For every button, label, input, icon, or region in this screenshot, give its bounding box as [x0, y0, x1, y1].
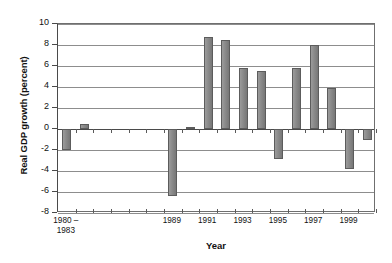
- x-axis-tick-bottom: [129, 209, 130, 213]
- x-axis-tick: [341, 129, 342, 133]
- x-axis-tick: [199, 129, 200, 133]
- y-axis-title: Real GDP growth (percent): [18, 31, 29, 201]
- bar: [363, 129, 372, 140]
- x-axis-tick: [270, 129, 271, 133]
- x-axis-tick-label-line: 1980 –: [43, 216, 89, 226]
- x-axis-tick: [129, 129, 130, 133]
- bar: [292, 68, 301, 129]
- bar: [204, 37, 213, 129]
- y-axis-tick-label: -8: [21, 206, 49, 216]
- bar: [274, 129, 283, 159]
- y-axis-tick: [52, 149, 57, 150]
- x-axis-tick: [217, 129, 218, 133]
- y-axis-tick: [52, 128, 57, 129]
- x-axis-tick: [376, 129, 377, 133]
- y-axis-tick-label: 10: [21, 17, 49, 27]
- plot-area: [57, 23, 375, 212]
- bar: [186, 127, 195, 129]
- bar: [239, 68, 248, 129]
- bar: [257, 71, 266, 129]
- x-axis-tick-bottom: [305, 209, 306, 213]
- y-axis-tick: [52, 65, 57, 66]
- gdp-growth-bar-chart: Real GDP growth (percent) Year 1086420-2…: [0, 0, 392, 263]
- x-axis-tick: [76, 129, 77, 133]
- x-axis-tick: [323, 129, 324, 133]
- y-axis-tick: [52, 170, 57, 171]
- x-axis-tick-bottom: [182, 209, 183, 213]
- y-axis-tick-label: -4: [21, 164, 49, 174]
- y-axis-tick: [52, 191, 57, 192]
- y-axis-tick-label: 4: [21, 80, 49, 90]
- x-axis-tick: [164, 129, 165, 133]
- gridline: [58, 150, 374, 151]
- y-axis-tick-label: 2: [21, 101, 49, 111]
- gridline: [58, 45, 374, 46]
- bar: [221, 40, 230, 129]
- y-axis-tick-label: 6: [21, 59, 49, 69]
- x-axis-tick-bottom: [93, 209, 94, 213]
- x-axis-tick-bottom: [217, 209, 218, 213]
- x-axis-tick-bottom: [341, 209, 342, 213]
- x-axis-tick-bottom: [288, 209, 289, 213]
- x-axis-tick: [252, 129, 253, 133]
- x-axis-tick-bottom: [323, 209, 324, 213]
- y-axis-tick: [52, 212, 57, 213]
- y-axis-tick: [52, 86, 57, 87]
- y-axis-tick-label: -2: [21, 143, 49, 153]
- gridline: [58, 213, 374, 214]
- y-axis-tick: [52, 23, 57, 24]
- x-axis-tick-bottom: [199, 209, 200, 213]
- bar: [310, 45, 319, 129]
- gridline: [58, 171, 374, 172]
- x-axis-tick-bottom: [146, 209, 147, 213]
- x-axis-tick: [111, 129, 112, 133]
- x-axis-tick-bottom: [235, 209, 236, 213]
- x-axis-tick-bottom: [358, 209, 359, 213]
- x-axis-tick-label-line: 1999: [326, 216, 372, 226]
- bar: [80, 124, 89, 129]
- x-axis-tick: [93, 129, 94, 133]
- x-axis-tick-bottom: [76, 209, 77, 213]
- x-axis-tick-bottom: [252, 209, 253, 213]
- x-axis-tick: [235, 129, 236, 133]
- bar: [345, 129, 354, 169]
- bar: [168, 129, 177, 196]
- x-axis-title: Year: [57, 240, 375, 251]
- x-axis-tick: [305, 129, 306, 133]
- y-axis-tick-label: -6: [21, 185, 49, 195]
- zero-axis-line: [58, 129, 374, 130]
- x-axis-tick-bottom: [376, 209, 377, 213]
- x-axis-tick: [288, 129, 289, 133]
- x-axis-tick-label: 1999: [326, 216, 372, 226]
- x-axis-tick-label: 1980 –1983: [43, 216, 89, 235]
- x-axis-tick: [146, 129, 147, 133]
- x-axis-tick-bottom: [111, 209, 112, 213]
- bar: [62, 129, 71, 150]
- gridline: [58, 24, 374, 25]
- x-axis-tick: [182, 129, 183, 133]
- y-axis-tick-label: 8: [21, 38, 49, 48]
- gridline: [58, 66, 374, 67]
- bar: [327, 88, 336, 129]
- y-axis-tick: [52, 44, 57, 45]
- gridline: [58, 192, 374, 193]
- x-axis-tick-bottom: [270, 209, 271, 213]
- x-axis-tick: [358, 129, 359, 133]
- x-axis-tick-bottom: [164, 209, 165, 213]
- x-axis-tick-label-line2: 1983: [43, 226, 89, 236]
- y-axis-tick-label: 0: [21, 122, 49, 132]
- y-axis-tick: [52, 107, 57, 108]
